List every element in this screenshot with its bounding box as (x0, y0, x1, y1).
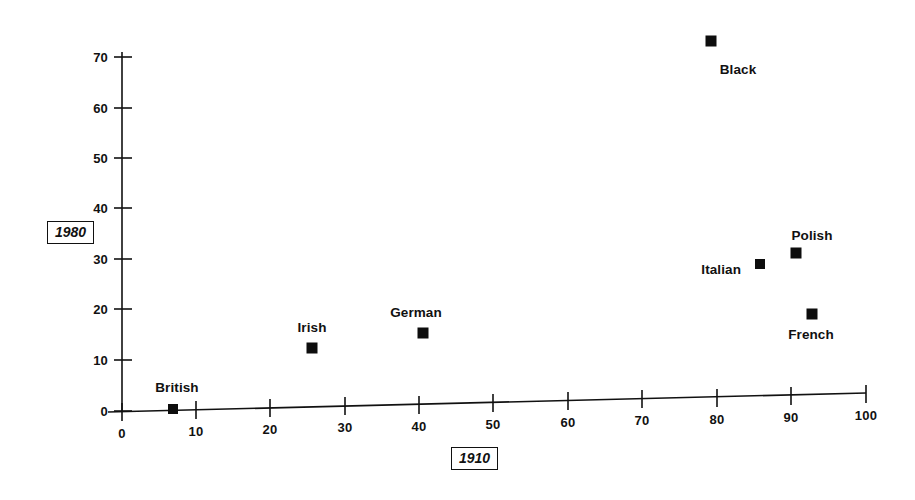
x-tick-label-100: 100 (855, 408, 877, 423)
x-tick-label-90: 90 (784, 410, 799, 425)
x-tick-label-10: 10 (189, 424, 204, 439)
x-axis-line (108, 393, 866, 412)
y-tick-label-30: 30 (93, 252, 108, 267)
x-axis-title: 1910 (451, 447, 498, 470)
data-point-french[interactable] (807, 309, 818, 320)
data-point-polish[interactable] (791, 248, 802, 259)
point-label-italian: Italian (701, 262, 741, 277)
chart-axes-svg (0, 0, 915, 500)
x-tick-label-50: 50 (486, 417, 501, 432)
y-tick-label-60: 60 (93, 101, 108, 116)
data-point-british[interactable] (168, 404, 178, 414)
x-tick-label-80: 80 (710, 412, 725, 427)
y-tick-label-40: 40 (93, 201, 108, 216)
y-axis-title: 1980 (47, 221, 94, 244)
data-point-german[interactable] (418, 328, 429, 339)
point-label-french: French (788, 327, 834, 342)
point-label-german: German (390, 305, 442, 320)
point-label-british: British (155, 380, 198, 395)
data-point-black[interactable] (706, 36, 717, 47)
x-tick-label-70: 70 (635, 413, 650, 428)
data-point-italian[interactable] (755, 259, 765, 269)
data-point-irish[interactable] (307, 343, 318, 354)
y-tick-label-20: 20 (93, 302, 108, 317)
y-tick-label-0: 0 (101, 404, 108, 419)
x-tick-label-40: 40 (412, 419, 427, 434)
point-label-irish: Irish (297, 320, 326, 335)
y-tick-label-50: 50 (93, 151, 108, 166)
x-tick-label-20: 20 (263, 422, 278, 437)
point-label-black: Black (720, 62, 757, 77)
y-axis-ticks (114, 57, 132, 411)
scatter-chart-figure: 70 60 50 40 30 20 10 0 0 10 20 30 40 50 … (0, 0, 915, 500)
y-tick-label-10: 10 (93, 353, 108, 368)
x-tick-label-30: 30 (338, 420, 353, 435)
y-tick-label-70: 70 (93, 50, 108, 65)
x-tick-label-60: 60 (561, 415, 576, 430)
x-tick-label-0: 0 (118, 426, 125, 441)
point-label-polish: Polish (791, 228, 832, 243)
